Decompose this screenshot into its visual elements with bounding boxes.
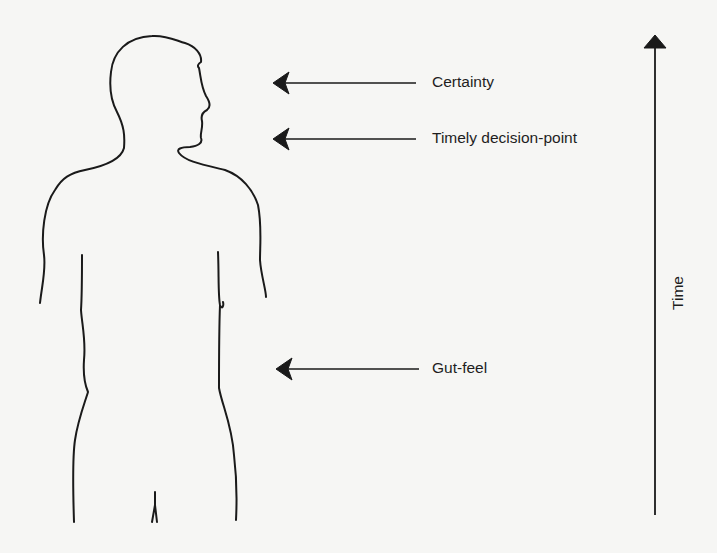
certainty-label: Certainty — [432, 73, 494, 91]
marker-arrows — [273, 72, 419, 380]
torso-left-side — [73, 255, 88, 522]
gut-feel-arrow — [276, 358, 419, 380]
timely-decision-point-arrow — [273, 128, 416, 150]
human-figure — [40, 36, 266, 522]
timely-decision-point-label: Timely decision-point — [432, 129, 577, 147]
certainty-arrow — [273, 72, 416, 94]
torso-right-side — [218, 252, 237, 520]
diagram-canvas — [0, 0, 717, 553]
time-axis-arrowhead-icon — [644, 35, 666, 48]
time-axis — [644, 35, 666, 515]
head-outline — [40, 36, 266, 303]
crotch-mark — [152, 492, 157, 522]
gut-feel-label: Gut-feel — [432, 359, 487, 377]
time-axis-label: Time — [669, 273, 687, 313]
